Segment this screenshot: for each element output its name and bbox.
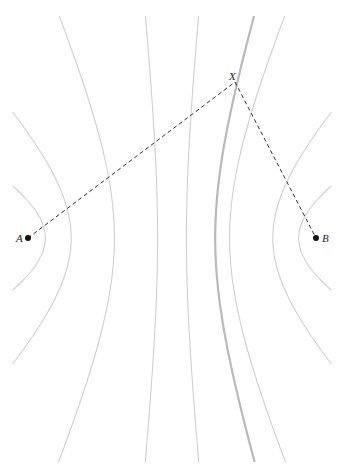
hyperbola-branch: [59, 16, 115, 462]
hyperbola-diagram: A B X: [0, 0, 341, 474]
highlighted-hyperbola-branch: [215, 16, 254, 462]
hyperbola-family: [13, 16, 332, 462]
segment-a-x: [28, 82, 235, 238]
hyperbola-branch: [145, 16, 157, 462]
hyperbola-branch: [186, 16, 198, 462]
point-x-label: X: [228, 70, 237, 82]
focus-b-point: [313, 235, 319, 241]
focus-a-point: [25, 235, 31, 241]
focus-b-label: B: [322, 232, 329, 244]
focus-a-label: A: [15, 232, 23, 244]
